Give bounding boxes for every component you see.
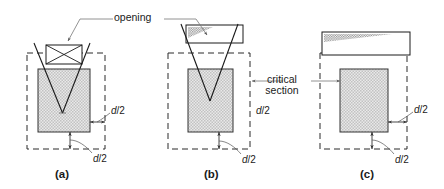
- dimension-label-b-bottom: d/2: [242, 155, 256, 166]
- dimension-half-plain: /2: [99, 153, 107, 164]
- panel-caption-b: (b): [204, 168, 219, 180]
- column-c: [340, 69, 388, 132]
- dimension-half-plain: /2: [117, 105, 125, 116]
- dimension-half-plain: /2: [248, 154, 256, 165]
- dimension-label-b-right: d/2: [256, 106, 270, 117]
- column-a: [38, 69, 90, 132]
- panel-caption-a: (a): [55, 168, 69, 180]
- opening-label: opening: [114, 12, 151, 23]
- critical-section-label-line2: section: [253, 85, 311, 96]
- dimension-half-plain: /2: [262, 105, 270, 116]
- punching-shear-critical-section-figure: [0, 0, 444, 189]
- dimension-half-plain: /2: [401, 154, 409, 165]
- dimension-label-c-bottom: d/2: [395, 155, 409, 166]
- panel-caption-c: (c): [360, 168, 374, 180]
- dimension-label-a-right: d/2: [111, 106, 125, 117]
- dimension-label-c-right: d/2: [414, 105, 428, 116]
- dimension-label-a-bottom: d/2: [93, 154, 107, 165]
- dimension-half-plain: /2: [420, 104, 428, 115]
- critical-section-label: critical section: [253, 74, 311, 96]
